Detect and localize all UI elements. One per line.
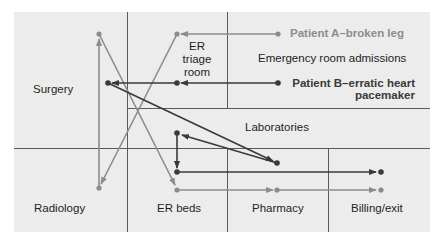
er-triage-label-line3: room	[175, 66, 219, 79]
surgery-label: Surgery	[33, 83, 73, 96]
er-beds-label: ER beds	[157, 202, 201, 215]
node-billing-a	[378, 187, 383, 192]
node-billing-b	[378, 169, 384, 175]
node-pharmacy-a	[274, 187, 279, 192]
radiology-label: Radiology	[34, 202, 85, 215]
node-admissions-b	[275, 80, 281, 86]
admissions-label: Emergency room admissions	[258, 52, 406, 65]
node-admissions-a	[275, 31, 280, 36]
node-surgery-b	[105, 80, 111, 86]
patient-a-label: Patient A–broken leg	[290, 27, 404, 40]
node-surgery-a	[96, 31, 101, 36]
layout-panel	[14, 12, 430, 232]
er-triage-label-line1: ER	[175, 40, 219, 53]
pharmacy-label: Pharmacy	[252, 202, 304, 215]
laboratories-label: Laboratories	[245, 121, 309, 134]
node-radiology-a	[96, 185, 101, 190]
node-labs-b	[274, 160, 280, 166]
billing-label: Billing/exit	[351, 202, 403, 215]
node-labs-upper-b	[174, 130, 180, 136]
node-er-beds-a	[174, 187, 179, 192]
er-triage-label-line2: triage	[175, 53, 219, 66]
patient-b-label-line2: pacemaker	[285, 89, 415, 102]
node-triage-b	[174, 80, 180, 86]
node-labs-lower-b	[174, 169, 180, 175]
node-triage-a	[174, 31, 179, 36]
